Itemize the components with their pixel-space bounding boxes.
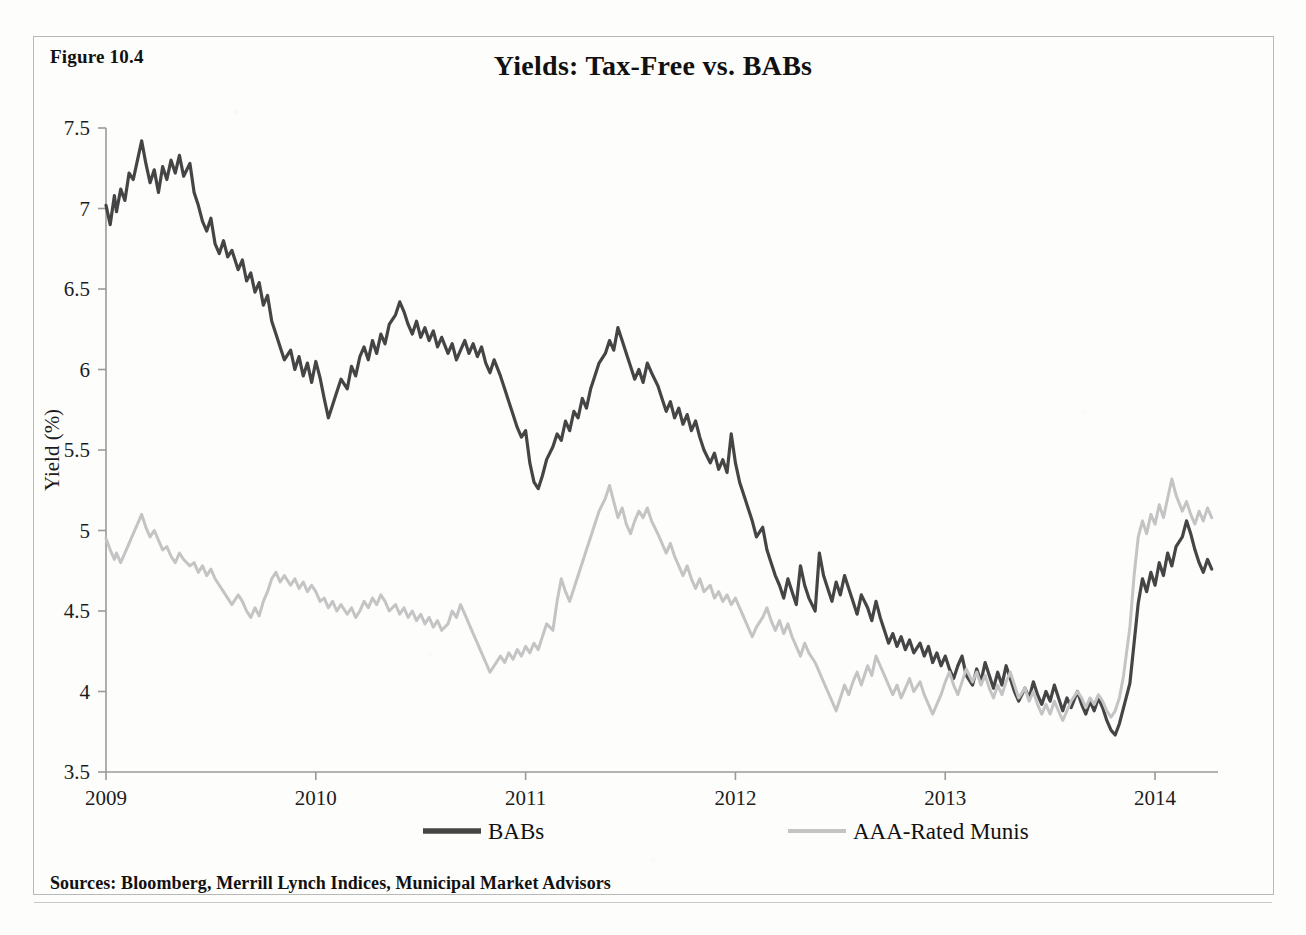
svg-text:BABs: BABs xyxy=(488,819,544,844)
svg-text:4.5: 4.5 xyxy=(64,599,90,623)
svg-text:5: 5 xyxy=(80,519,91,543)
source-note: Sources: Bloomberg, Merrill Lynch Indice… xyxy=(50,873,611,894)
y-axis-title: Yield (%) xyxy=(40,409,64,491)
y-axis-tick-labels: 3.544.555.566.577.5 xyxy=(64,116,91,784)
line-chart-svg: 3.544.555.566.577.5 20092010201120122013… xyxy=(33,36,1274,895)
svg-text:2009: 2009 xyxy=(85,786,127,810)
chart-legend: BABsAAA-Rated Munis xyxy=(423,819,1029,844)
svg-text:7.5: 7.5 xyxy=(64,116,90,140)
svg-text:6: 6 xyxy=(80,358,91,382)
chart-plot-area: 3.544.555.566.577.5 20092010201120122013… xyxy=(33,36,1274,895)
svg-text:2014: 2014 xyxy=(1134,786,1177,810)
svg-text:6.5: 6.5 xyxy=(64,277,90,301)
chart-axes xyxy=(98,128,1218,780)
svg-text:2011: 2011 xyxy=(505,786,546,810)
svg-text:Yield (%): Yield (%) xyxy=(40,409,64,491)
svg-text:AAA-Rated Munis: AAA-Rated Munis xyxy=(853,819,1029,844)
svg-text:5.5: 5.5 xyxy=(64,438,90,462)
svg-text:2012: 2012 xyxy=(714,786,756,810)
svg-text:7: 7 xyxy=(80,197,91,221)
svg-text:2013: 2013 xyxy=(924,786,966,810)
svg-text:2010: 2010 xyxy=(295,786,337,810)
source-divider xyxy=(34,902,1272,903)
x-axis-tick-labels: 200920102011201220132014 xyxy=(85,786,1177,810)
svg-text:4: 4 xyxy=(80,680,91,704)
svg-text:3.5: 3.5 xyxy=(64,760,90,784)
chart-series-group xyxy=(106,141,1212,735)
